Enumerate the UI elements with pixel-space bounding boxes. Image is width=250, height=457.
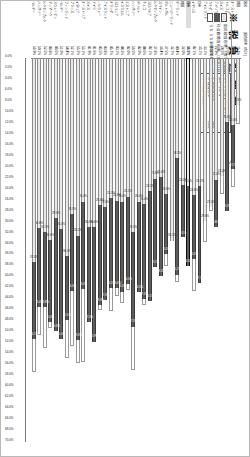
bar-row[interactable]: 30.8%14.4% xyxy=(36,58,42,442)
x-tick-label: 4.0% xyxy=(5,76,12,80)
bar-row[interactable]: 21.8%16.1% xyxy=(153,58,159,442)
bar-row[interactable]: 26.0%16.0% xyxy=(81,58,87,442)
stacked-bar: 33.0%15.0% xyxy=(48,58,52,442)
bar-row[interactable]: 26.0%16.5% xyxy=(136,58,142,442)
bar-row[interactable]: 30.6%20.9% xyxy=(92,58,98,442)
category-row: ノルウェー45.5% xyxy=(97,1,103,58)
segment-social: 15.0% xyxy=(48,240,52,322)
x-tick-label: 0.0% xyxy=(5,54,12,58)
bar-row[interactable]: 21.4% xyxy=(219,58,225,442)
category-row: スペイン36.4% xyxy=(158,1,164,58)
segment-social: 13.8% xyxy=(43,232,47,308)
stacked-bar: 11.4%16.3% xyxy=(225,58,229,442)
category-total-value: 55.2% xyxy=(76,28,80,58)
stacked-bar: 29.0%20.6% xyxy=(54,58,58,442)
category-total-value: 41.6% xyxy=(92,28,96,58)
segment-remainder xyxy=(126,284,130,290)
segment-social: 20.9% xyxy=(92,227,96,342)
bar-row[interactable]: 22.0%8.6% xyxy=(213,58,219,442)
category-name: スイス xyxy=(86,1,91,28)
category-row: フィンランド54.4% xyxy=(64,1,70,58)
segment-social: 11.0% xyxy=(164,194,168,254)
bar-row[interactable]: 36.0%11.5% xyxy=(64,58,70,442)
segment-tax: 8.3% xyxy=(236,58,240,105)
segment-remainder xyxy=(142,299,146,304)
bar-row[interactable]: 26.6%18.3% xyxy=(97,58,103,442)
bar-row[interactable]: 31.0%20.0% xyxy=(58,58,64,442)
category-total-value: 43.8% xyxy=(103,28,107,58)
segment-social: 21.2% xyxy=(175,158,179,274)
stacked-bar: 25.3%16.5% xyxy=(109,58,113,442)
stacked-bar: 37.0%14.1% xyxy=(32,58,36,442)
bar-row[interactable]: 25.8%16.0% xyxy=(114,58,120,442)
bar-row[interactable]: 37.0%14.1% xyxy=(31,58,37,442)
x-axis-line xyxy=(25,58,26,442)
bar-row[interactable]: 11.4%16.3% xyxy=(224,58,230,442)
bar-row[interactable]: 26.0%16.4% xyxy=(119,58,125,442)
category-name: オーストラリア xyxy=(230,1,235,28)
x-tick-label: 68.0% xyxy=(5,427,14,431)
x-tick-label: 60.0% xyxy=(5,383,14,387)
bar-row[interactable]: 24.1%20.1% xyxy=(147,58,153,442)
segment-tax: 29.0% xyxy=(54,58,58,218)
bar-row[interactable]: 24.6%11.0% xyxy=(164,58,170,442)
stacked-bar: 27.0%17.0% xyxy=(104,58,108,442)
stacked-bar: 21.6%18.0% xyxy=(159,58,163,442)
category-total-value: 42.0% xyxy=(126,28,130,58)
segment-tax: 33.0% xyxy=(48,58,52,240)
bar-row[interactable]: 27.0%17.0% xyxy=(103,58,109,442)
segment-social: 18.3% xyxy=(98,205,102,305)
x-tick-label: 48.0% xyxy=(5,317,14,321)
bar-row[interactable]: 29.0%20.6% xyxy=(53,58,59,442)
segment-tax: 36.0% xyxy=(65,58,69,256)
segment-tax: 26.0% xyxy=(81,58,85,202)
stacked-bar: 22.0%8.6% xyxy=(214,58,218,442)
bar-row[interactable]: 25.3%16.5% xyxy=(108,58,114,442)
segment-social: 14.1% xyxy=(32,262,36,339)
segment-value-label: 9.5% xyxy=(180,231,187,235)
category-total-value: 22.9% xyxy=(214,28,218,58)
category-row: カナダ27.6% xyxy=(208,1,214,58)
bar-row[interactable]: 8.3% xyxy=(235,58,241,442)
bar-row[interactable]: 18.1%21.2% xyxy=(175,58,181,442)
segment-value-label: 8.6% xyxy=(213,221,220,225)
category-row: ドイツ41.6% xyxy=(92,1,98,58)
stacked-bar: 36.0%11.5% xyxy=(65,58,69,442)
category-row: オーストラリア23.1% xyxy=(230,1,236,58)
stacked-bar: 23.2%14.6% xyxy=(186,58,190,442)
stacked-bar: 24.1%20.1% xyxy=(148,58,152,442)
x-tick-label: 28.0% xyxy=(5,208,14,212)
segment-value-label: 37.0% xyxy=(29,255,37,259)
segment-tax: 28.3% xyxy=(70,58,74,214)
segment-tax: 21.6% xyxy=(159,58,163,177)
bar-row[interactable]: 31.5%17.3% xyxy=(130,58,136,442)
bar-row[interactable]: 26.4%17.4% xyxy=(141,58,147,442)
bar-row[interactable]: 24.8%11.6% xyxy=(191,58,197,442)
category-total-value: 56.9% xyxy=(32,28,36,58)
category-total-value: 55.1% xyxy=(81,28,85,58)
category-row: スロバキア42.1% xyxy=(147,1,153,58)
bar-row[interactable]: 31.5%13.8% xyxy=(42,58,48,442)
segment-tax: 30.8% xyxy=(37,58,41,228)
bar-row[interactable]: 23.2%17.7% xyxy=(197,58,203,442)
category-name: フランス xyxy=(70,1,75,28)
bar-row[interactable]: 21.6%18.0% xyxy=(158,58,164,442)
segment-social: 20.1% xyxy=(148,191,152,301)
bar-row[interactable]: 29.6% xyxy=(202,58,208,442)
plot-area: 8.3%12.0%8.1%11.4%16.3%21.4%22.0%8.6%27.… xyxy=(31,58,241,442)
x-tick-label: 56.0% xyxy=(5,361,14,365)
x-tick-label: 70.0% xyxy=(5,438,14,442)
x-tick-label: 6.0% xyxy=(5,87,12,91)
segment-value-label: 8.3% xyxy=(235,98,242,102)
segment-remainder xyxy=(32,339,36,372)
category-name: 日本 xyxy=(186,1,191,28)
bar-row[interactable]: 23.2%14.6% xyxy=(186,58,192,442)
bar-row[interactable]: 32.2%19.0% xyxy=(75,58,81,442)
bar-row[interactable]: 23.0%9.5% xyxy=(180,58,186,442)
bar-row[interactable]: 25.1%16.0% xyxy=(125,58,131,442)
bar-row[interactable]: 30.6%17.3% xyxy=(86,58,92,442)
segment-tax: 31.5% xyxy=(43,58,47,232)
bar-row[interactable]: 33.0%15.0% xyxy=(47,58,53,442)
x-tick-label: 50.0% xyxy=(5,328,14,332)
bar-row[interactable]: 27.0% xyxy=(208,58,214,442)
